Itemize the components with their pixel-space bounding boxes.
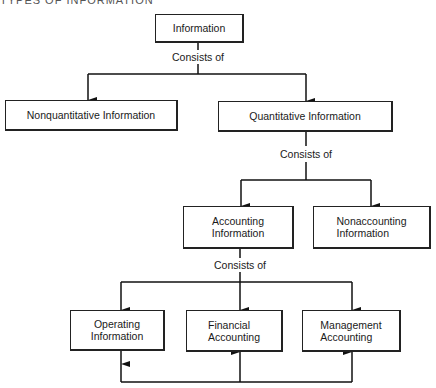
node-label: Information	[173, 22, 226, 34]
node-label-line1: Financial	[208, 319, 260, 331]
node-management-accounting: Management Accounting	[302, 310, 401, 352]
node-label-line2: Information	[336, 227, 406, 239]
node-nonaccounting-information: Nonaccounting Information	[313, 206, 431, 249]
node-accounting-information: Accounting Information	[183, 206, 294, 249]
node-label-line1: Accounting	[212, 215, 265, 227]
node-nonquantitative-information: Nonquantitative Information	[5, 100, 178, 131]
node-label: Quantitative Information	[249, 110, 360, 122]
node-information: Information	[155, 14, 244, 43]
node-label: Nonquantitative Information	[27, 109, 155, 121]
consists-of-label: Consists of	[170, 51, 226, 63]
node-financial-accounting: Financial Accounting	[186, 310, 283, 352]
node-label-line2: Information	[91, 330, 144, 342]
node-operating-information: Operating Information	[70, 310, 165, 351]
consists-of-label: Consists of	[212, 259, 268, 271]
node-label-line1: Nonaccounting	[336, 215, 406, 227]
node-label-line1: Management	[320, 319, 381, 331]
node-label-line2: Information	[212, 227, 265, 239]
consists-of-label: Consists of	[278, 148, 334, 160]
node-label-line2: Accounting	[208, 331, 260, 343]
node-label-line2: Accounting	[320, 331, 381, 343]
node-label-line1: Operating	[91, 318, 144, 330]
node-quantitative-information: Quantitative Information	[218, 101, 393, 132]
